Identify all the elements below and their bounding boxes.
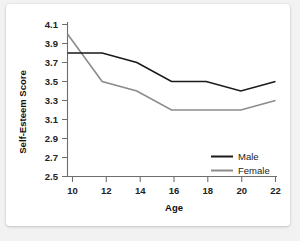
- x-tick-label: 12: [101, 185, 112, 196]
- x-tick-label: 10: [67, 185, 78, 196]
- legend-label-female: Female: [238, 165, 270, 176]
- y-axis-ticks: [62, 25, 67, 177]
- y-tick-label: 3.9: [45, 38, 58, 49]
- chart-card: Self-Esteem Score 4.1 3.9 3.7 3.5 3.3 3.…: [6, 4, 290, 226]
- x-tick-label: 14: [135, 185, 146, 196]
- y-tick-label: 3.3: [45, 95, 58, 106]
- line-chart: Self-Esteem Score 4.1 3.9 3.7 3.5 3.3 3.…: [6, 4, 290, 226]
- x-tick-label: 22: [270, 185, 281, 196]
- chart-legend: Male Female: [211, 151, 270, 176]
- y-tick-label: 3.5: [45, 76, 59, 87]
- series-line-male: [68, 53, 276, 91]
- x-tick-label: 16: [169, 185, 180, 196]
- x-axis-tick-labels: 10 12 14 16 18 20 22: [67, 185, 281, 196]
- y-tick-label: 3.1: [45, 114, 59, 125]
- x-axis-title: Age: [165, 202, 183, 213]
- series-line-female: [68, 34, 276, 110]
- x-tick-label: 20: [236, 185, 247, 196]
- y-tick-label: 2.7: [45, 152, 58, 163]
- y-axis-tick-labels: 4.1 3.9 3.7 3.5 3.3 3.1 2.9 2.7 2.5: [45, 19, 59, 182]
- y-tick-label: 4.1: [45, 19, 59, 30]
- legend-label-male: Male: [238, 151, 259, 162]
- y-tick-label: 2.5: [45, 171, 59, 182]
- y-tick-label: 2.9: [45, 133, 58, 144]
- y-tick-label: 3.7: [45, 57, 58, 68]
- x-axis-ticks: [73, 177, 276, 183]
- x-tick-label: 18: [203, 185, 214, 196]
- y-axis-title: Self-Esteem Score: [17, 70, 28, 153]
